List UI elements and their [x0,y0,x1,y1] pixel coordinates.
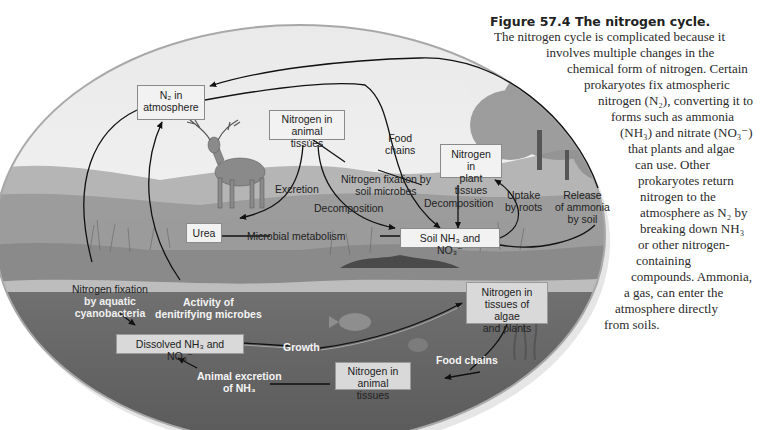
food-chains-water-label: Food chains [436,354,498,366]
uptake-by-roots-label: Uptake by roots [505,189,542,213]
decomposition-plant-label: Decomposition [424,197,493,209]
nitrogen-cycle-figure: N₂ in atmosphere Nitrogen in animal tiss… [0,0,773,430]
excretion-label: Excretion [275,183,319,195]
caption-line: can use. Other [635,157,710,173]
nitrogen-fixation-aquatic-label: Nitrogen fixation by aquatic cyanobacter… [72,283,148,319]
soil-nh3-no3-box: Soil NH₃ and NO₃⁻ [400,228,500,248]
label-line: soil microbes [355,185,416,197]
dissolved-nh3-no3-box: Dissolved NH₃ and NO₃⁻ [116,334,244,354]
caption-line: nitrogen to the [640,189,716,205]
label-line: of ammonia [555,201,610,213]
box-line: plant tissues [455,172,488,196]
label-line: Nitrogen fixation [72,283,148,295]
caption-line: prokaryotes fix atmospheric [584,77,730,93]
box-line: atmosphere [143,101,198,113]
denitrifying-microbes-label: Activity of denitrifying microbes [155,296,262,320]
caption-line: (NH₃) and nitrate (NO₃⁻) [620,125,753,141]
n2-atmosphere-box: N₂ in atmosphere [137,85,205,120]
caption-line: involves multiple changes in the [546,45,714,61]
label-line: Food [388,132,412,144]
caption-line: or other nitrogen- [638,237,730,253]
figure-caption: Figure 57.4 The nitrogen cycle. [490,14,773,29]
box-line: N₂ in [160,89,183,101]
label-line: by aquatic [84,295,136,307]
caption-line: atmosphere as N₂ by [640,205,747,221]
urea-box: Urea [186,223,222,243]
label-line: Animal excretion [197,370,282,382]
box-line: Nitrogen in [282,113,333,125]
figure-number: Figure 57.4 [490,14,571,29]
growth-label: Growth [283,341,320,353]
box-line: Nitrogen in [482,286,533,298]
box-line: animal tissues [357,377,390,401]
release-of-ammonia-label: Release of ammonia by soil [555,189,610,225]
microbial-metabolism-label: Microbial metabolism [247,230,346,242]
label-line: Nitrogen fixation by [341,173,431,185]
caption-line: prokaryotes return [638,173,734,189]
plant-tissues-box: Nitrogen in plant tissues [440,144,502,178]
animal-tissues-water-box: Nitrogen in animal tissues [335,362,411,390]
decomposition-animal-label: Decomposition [314,202,383,214]
label-line: Release [563,189,602,201]
caption-line: The nitrogen cycle is complicated becaus… [494,29,725,45]
caption-title: Figure 57.4 The nitrogen cycle. [490,14,773,29]
box-line: tissues of algae [485,298,529,322]
caption-line: breaking down NH₃ [640,221,744,237]
label-line: by roots [505,201,542,213]
label-line: denitrifying microbes [155,308,262,320]
food-chains-land-label: Food chains [385,132,415,156]
caption-line: containing [636,253,691,269]
label-line: chains [385,144,415,156]
caption-line: that plants and algae [628,141,735,157]
box-line: Nitrogen in [348,365,399,377]
nitrogen-fixation-soil-label: Nitrogen fixation by soil microbes [341,173,431,197]
caption-line: a gas, can enter the [624,285,723,301]
animal-tissues-land-box: Nitrogen in animal tissues [269,110,345,140]
animal-excretion-label: Animal excretion of NH₃ [197,370,282,394]
label-line: of NH₃ [223,382,256,394]
caption-line: from soils. [604,317,660,333]
caption-line: atmosphere directly [615,301,718,317]
caption-line: compounds. Ammonia, [631,269,752,285]
box-line: animal tissues [291,125,324,149]
caption-line: forms such as ammonia [611,109,734,125]
figure-title: The nitrogen cycle. [575,14,710,29]
label-line: Activity of [183,296,234,308]
label-line: Uptake [507,189,540,201]
box-line: Urea [193,227,216,239]
label-line: by soil [568,213,598,225]
caption-line: nitrogen (N₂), converting it to [598,93,753,109]
box-line: Nitrogen in [451,148,491,172]
label-line: cyanobacteria [75,307,146,319]
caption-line: chemical form of nitrogen. Certain [567,61,748,77]
algae-plants-box: Nitrogen in tissues of algae and plants [466,282,548,324]
box-line: and plants [483,322,531,334]
